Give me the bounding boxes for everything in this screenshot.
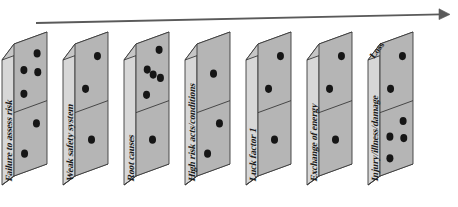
domino-pip [33,119,40,127]
domino-pip [149,136,156,144]
domino-pip [387,85,394,93]
domino-4[interactable]: High risk acts/conditions [185,32,230,185]
domino-front-face [258,32,291,176]
domino-pip [265,85,272,93]
domino-pip [143,91,150,99]
domino-side-label: Injury/illness/damage [369,93,380,182]
domino-pip [144,66,151,74]
domino-2[interactable]: Weak safety system [63,32,108,185]
domino-pip [386,154,393,162]
domino-side-label: Failure to assess risk [3,97,14,182]
domino-pip [204,150,211,158]
domino-pip [216,119,223,127]
domino-pip [400,134,407,142]
domino-5[interactable]: Luck factor 1 [246,32,291,185]
domino-pip [150,70,157,78]
domino-pip [400,117,407,125]
figure-canvas: Failure to assess riskWeak safety system… [0,0,458,207]
domino-front-face [75,32,108,176]
domino-front-face [14,32,47,176]
domino-side-label: Weak safety system [64,102,75,182]
domino-side-label: Root causes [125,133,136,183]
domino-front-face [197,32,230,176]
domino-front-face [319,32,352,176]
domino-pip [21,150,28,158]
domino-7[interactable]: Injury/illness/damageLoss [368,32,413,185]
domino-pip [277,52,284,60]
domino-side-label: Exchange of energy [308,102,319,183]
domino-pip [326,85,333,93]
domino-pip [386,133,393,141]
domino-front-face [136,32,169,176]
domino-6[interactable]: Exchange of energy [307,32,352,185]
domino-diagram: Failure to assess riskWeak safety system… [0,0,458,207]
domino-pip [399,52,406,60]
domino-pip [210,70,217,78]
domino-pip [20,90,27,98]
domino-pip [94,52,101,60]
domino-pip [82,85,89,93]
domino-pip [20,66,27,74]
domino-pip [156,46,163,54]
domino-front-face [380,32,413,176]
domino-side-label: Luck factor 1 [247,126,258,182]
domino-pip [157,74,164,82]
domino-1[interactable]: Failure to assess risk [2,32,47,185]
domino-side-label: High risk acts/conditions [186,81,197,182]
domino-pip [332,136,339,144]
domino-pip [338,52,345,60]
domino-pip [271,136,278,144]
domino-pip [34,68,41,76]
domino-3[interactable]: Root causes [124,32,169,185]
domino-pip [88,136,95,144]
domino-pip [34,49,41,57]
